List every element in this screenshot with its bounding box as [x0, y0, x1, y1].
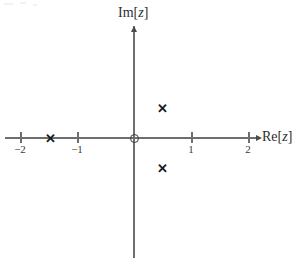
tick-label-2: 2	[238, 144, 258, 155]
scan-speckle	[33, 4, 37, 6]
imaginary-axis-arrow-icon	[131, 26, 137, 32]
tick-mark-1	[191, 132, 193, 143]
scan-speckle	[20, 2, 26, 4]
tick-label-minus2: −2	[10, 144, 30, 155]
pole-marker-upper-complex: ✕	[157, 103, 168, 114]
real-axis-label: Re[z]	[262, 130, 292, 144]
tick-label-minus1: −1	[67, 144, 87, 155]
pole-marker-left-real: ✕	[45, 133, 56, 144]
scan-speckle	[4, 3, 13, 5]
im-label-suffix: ]	[144, 5, 149, 20]
tick-mark-2	[248, 132, 250, 143]
pole-marker-lower-complex: ✕	[157, 163, 168, 174]
re-label-prefix: Re[	[262, 129, 282, 144]
im-label-prefix: Im[	[118, 5, 138, 20]
zero-marker-origin	[130, 134, 139, 143]
imaginary-axis-label: Im[z]	[118, 6, 148, 20]
tick-mark-minus2	[20, 132, 22, 143]
tick-mark-minus1	[77, 132, 79, 143]
pole-zero-plot: Im[z] Re[z] −2 −1 1 2 ✕ ✕ ✕	[0, 0, 299, 265]
re-label-suffix: ]	[288, 129, 293, 144]
tick-label-1: 1	[181, 144, 201, 155]
